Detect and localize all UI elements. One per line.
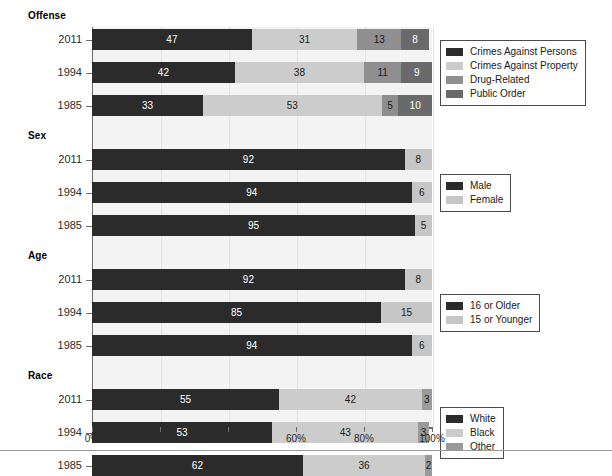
row-label-sex-2011: 2011 [0,149,82,170]
bar-value-label: 53 [177,428,188,438]
bar-segment: 85 [92,302,381,323]
bar-segment: 3 [422,389,432,410]
x-axis-tick-label: 60% [286,433,306,444]
group-label-offense: Offense [28,10,66,21]
legend-swatch-icon [446,48,463,56]
bar-value-label: 6 [419,341,425,351]
legend-item[interactable]: Black [446,426,496,440]
bar-segment: 13 [357,29,401,50]
bar-value-label: 55 [180,395,191,405]
bar-segment: 9 [401,62,432,83]
legend-item[interactable]: Other [446,440,496,454]
group-label-age: Age [28,250,47,261]
legend-item[interactable]: White [446,412,496,426]
x-axis-tick [432,427,433,432]
bar-value-label: 33 [142,101,153,111]
bar-segment: 42 [92,62,235,83]
row-label-offense-2011: 2011 [0,29,82,50]
table-row: 946 [92,335,432,356]
group-label-race: Race [28,370,52,381]
x-axis-tick [160,427,161,432]
legend-race: WhiteBlackOther [440,407,504,459]
bar-value-label: 31 [299,35,310,45]
bar-value-label: 94 [246,188,257,198]
table-row: 3353510 [92,95,432,116]
bar-value-label: 43 [340,428,351,438]
legend-label: Crimes Against Property [470,59,578,73]
legend-label: Black [470,426,494,440]
bar-segment: 31 [252,29,357,50]
bar-segment: 36 [303,455,425,476]
bar-segment: 94 [92,335,412,356]
bar-value-label: 94 [246,341,257,351]
bar-segment: 6 [412,182,432,203]
bar-value-label: 47 [166,35,177,45]
x-axis-tick-label: 80% [354,433,374,444]
row-label-age-1985: 1985 [0,335,82,356]
table-row: 4731138 [92,29,432,50]
legend-swatch-icon [446,182,463,190]
table-row: 53433 [92,422,432,443]
x-axis-tick-label: 40% [218,433,238,444]
bar-value-label: 8 [412,35,418,45]
x-axis-tick-label: 20% [150,433,170,444]
row-label-age-1994: 1994 [0,302,82,323]
bar-value-label: 92 [243,155,254,165]
bar-segment: 92 [92,149,405,170]
bar-segment: 6 [412,335,432,356]
bar-value-label: 85 [231,308,242,318]
bar-value-label: 11 [377,68,387,78]
legend-swatch-icon [446,76,463,84]
row-label-race-1985: 1985 [0,455,82,476]
row-label-offense-1994: 1994 [0,62,82,83]
bar-segment: 5 [415,215,432,236]
row-label-offense-1985: 1985 [0,95,82,116]
bar-segment: 8 [405,269,432,290]
bar-value-label: 42 [158,68,169,78]
legend-item[interactable]: Crimes Against Property [446,59,578,73]
legend-label: 15 or Younger [470,313,532,327]
x-axis-tick [92,427,93,432]
bar-segment: 2 [425,455,432,476]
x-axis-tick [364,427,365,432]
legend-item[interactable]: Male [446,179,503,193]
legend-label: Male [470,179,492,193]
bar-segment: 11 [364,62,401,83]
legend-swatch-icon [446,429,463,437]
legend-item[interactable]: Public Order [446,87,578,101]
legend-offense: Crimes Against PersonsCrimes Against Pro… [440,40,586,106]
bar-value-label: 36 [358,461,369,471]
bar-segment: 8 [405,149,432,170]
legend-swatch-icon [446,90,463,98]
legend-item[interactable]: Crimes Against Persons [446,45,578,59]
legend-item[interactable]: Drug-Related [446,73,578,87]
x-axis-tick-label: 100% [419,433,445,444]
legend-label: Drug-Related [470,73,529,87]
legend-swatch-icon [446,62,463,70]
bar-segment: 95 [92,215,415,236]
row-label-race-2011: 2011 [0,389,82,410]
bar-segment: 5 [382,95,399,116]
bar-segment: 8 [401,29,428,50]
row-label-age-2011: 2011 [0,269,82,290]
legend-item[interactable]: 15 or Younger [446,313,532,327]
bar-segment: 10 [398,95,432,116]
legend-swatch-icon [446,316,463,324]
legend-swatch-icon [446,302,463,310]
bar-value-label: 53 [287,101,298,111]
bar-value-label: 38 [294,68,305,78]
x-axis-tick [296,427,297,432]
group-label-sex: Sex [28,130,46,141]
legend-item[interactable]: 16 or Older [446,299,532,313]
x-axis-tick [228,427,229,432]
legend-item[interactable]: Female [446,193,503,207]
table-row: 928 [92,269,432,290]
legend-label: Other [470,440,495,454]
legend-label: Public Order [470,87,526,101]
footer-rule [0,450,612,451]
row-label-sex-1994: 1994 [0,182,82,203]
table-row: 928 [92,149,432,170]
row-label-sex-1985: 1985 [0,215,82,236]
bar-segment: 53 [203,95,381,116]
